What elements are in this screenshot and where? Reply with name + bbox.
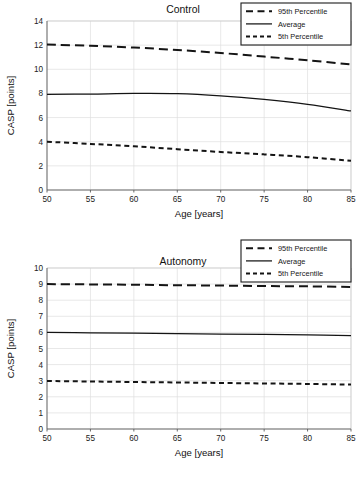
series-line — [47, 381, 351, 385]
y-tick-label: 6 — [38, 328, 43, 337]
y-tick-label: 9 — [38, 280, 43, 289]
series-line — [47, 45, 351, 65]
x-axis-title: Age [years] — [175, 447, 224, 458]
y-axis-title: CASP [points] — [5, 76, 16, 136]
legend-label: 5th Percentile — [278, 269, 323, 278]
y-tick-label: 4 — [38, 138, 43, 147]
series-line — [47, 284, 351, 287]
chart-title: Control — [166, 4, 200, 15]
y-tick-label: 2 — [38, 162, 43, 171]
y-tick-label: 14 — [34, 17, 44, 26]
y-tick-label: 7 — [38, 312, 43, 321]
figure-container: 024681012145055606570758085Age [years]CA… — [0, 0, 363, 477]
y-axis-title: CASP [points] — [5, 319, 16, 379]
x-tick-label: 70 — [216, 434, 226, 443]
x-tick-label: 85 — [346, 434, 356, 443]
y-tick-label: 0 — [38, 186, 43, 195]
y-tick-label: 8 — [38, 296, 43, 305]
x-tick-label: 70 — [216, 195, 226, 204]
x-tick-label: 85 — [346, 195, 356, 204]
legend-label: 5th Percentile — [278, 32, 323, 41]
y-tick-label: 3 — [38, 377, 43, 386]
legend-label: 95th Percentile — [278, 244, 327, 253]
x-tick-label: 60 — [129, 195, 139, 204]
x-tick-label: 55 — [86, 434, 96, 443]
legend-label: Average — [278, 20, 305, 29]
legend-label: 95th Percentile — [278, 7, 327, 16]
x-tick-label: 50 — [42, 195, 52, 204]
y-tick-label: 12 — [34, 41, 44, 50]
y-tick-label: 4 — [38, 361, 43, 370]
chart-panel-autonomy: 0123456789105055606570758085Age [years]C… — [0, 238, 363, 477]
y-tick-label: 5 — [38, 345, 43, 354]
y-tick-label: 10 — [34, 65, 44, 74]
x-tick-label: 80 — [303, 195, 313, 204]
y-tick-label: 1 — [38, 409, 43, 418]
series-line — [47, 93, 351, 111]
x-axis-title: Age [years] — [175, 208, 224, 219]
y-tick-label: 2 — [38, 393, 43, 402]
y-tick-label: 10 — [34, 264, 44, 273]
series-line — [47, 332, 351, 335]
chart-svg-autonomy: 0123456789105055606570758085Age [years]C… — [0, 238, 363, 477]
x-tick-label: 75 — [260, 195, 270, 204]
x-tick-label: 75 — [260, 434, 270, 443]
chart-panel-control: 024681012145055606570758085Age [years]CA… — [0, 0, 363, 239]
x-tick-label: 65 — [173, 195, 183, 204]
x-tick-label: 80 — [303, 434, 313, 443]
y-tick-label: 8 — [38, 89, 43, 98]
legend-label: Average — [278, 257, 305, 266]
y-tick-label: 6 — [38, 114, 43, 123]
x-tick-label: 55 — [86, 195, 96, 204]
chart-title: Autonomy — [160, 256, 208, 267]
series-line — [47, 142, 351, 161]
x-tick-label: 50 — [42, 434, 52, 443]
x-tick-label: 65 — [173, 434, 183, 443]
chart-svg-control: 024681012145055606570758085Age [years]CA… — [0, 0, 363, 239]
x-tick-label: 60 — [129, 434, 139, 443]
y-tick-label: 0 — [38, 425, 43, 434]
